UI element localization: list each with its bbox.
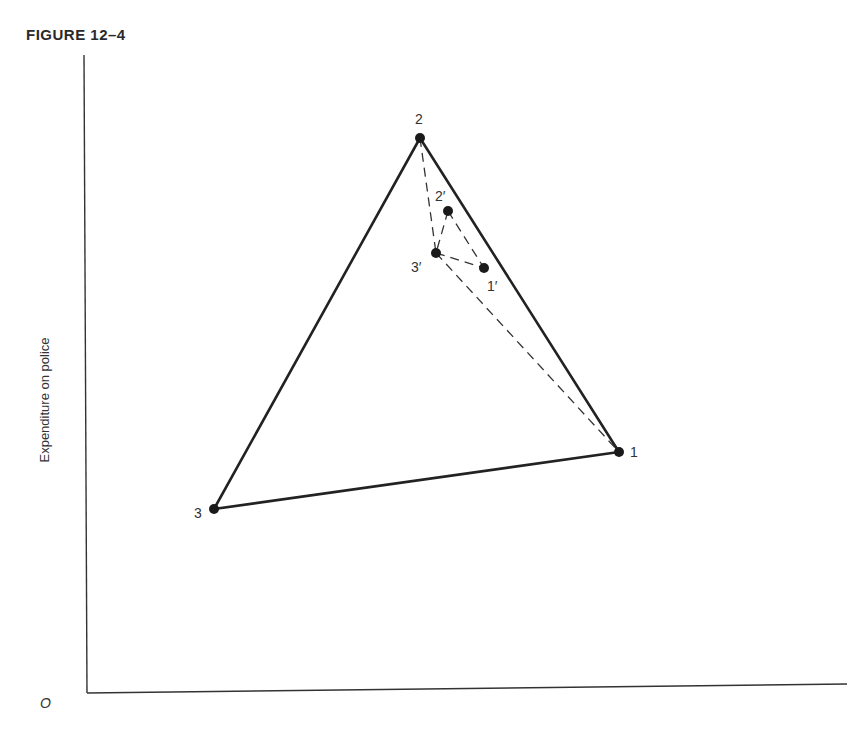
label-point-2-prime: 2′ (435, 188, 446, 204)
dashed-2-to-3prime (420, 138, 436, 253)
dashed-2prime-to-1prime (448, 211, 484, 268)
dashed-3prime-to-1prime (436, 253, 484, 268)
point-1 (614, 447, 624, 457)
label-point-3-prime: 3′ (411, 259, 422, 275)
label-point-3: 3 (194, 505, 202, 521)
label-point-2: 2 (415, 111, 423, 127)
dashed-3prime-to-1 (436, 253, 619, 452)
diagram-canvas: 1 2 3 1′ 2′ 3′ (0, 0, 868, 739)
label-point-1: 1 (630, 444, 638, 460)
x-axis (87, 684, 847, 693)
y-axis (84, 55, 87, 693)
solid-triangle (214, 138, 619, 509)
label-point-1-prime: 1′ (487, 278, 498, 294)
dashed-2prime-to-3prime (436, 211, 448, 253)
figure-12-4: FIGURE 12–4 Expenditure on police O 1 2 (0, 0, 868, 739)
point-1-prime (479, 263, 489, 273)
point-2 (415, 133, 425, 143)
point-3 (209, 504, 219, 514)
point-3-prime (431, 248, 441, 258)
point-2-prime (443, 206, 453, 216)
